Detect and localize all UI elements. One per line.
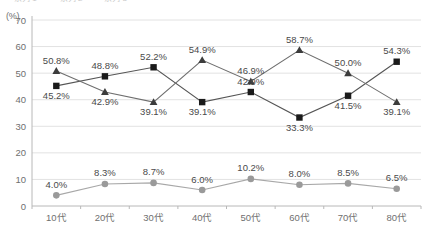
data-label: 42.9% [237, 76, 264, 87]
data-point-square [199, 99, 205, 105]
data-label: 46.9% [237, 65, 264, 76]
y-tick-label: 30 [15, 121, 26, 132]
data-label: 10.2% [237, 162, 264, 173]
data-label: 41.5% [335, 100, 362, 111]
data-label: 50.0% [335, 57, 362, 68]
data-label: 39.1% [140, 106, 167, 117]
data-label: 8.5% [337, 167, 359, 178]
x-tick-label: 60代 [289, 212, 310, 223]
data-point-triangle [101, 88, 109, 95]
data-label: 4.0% [45, 179, 67, 190]
y-tick-label: 70 [15, 15, 26, 26]
data-point-square [102, 73, 108, 79]
data-point-circle [393, 185, 400, 192]
data-point-triangle [296, 46, 304, 53]
data-label: 8.7% [143, 166, 165, 177]
x-tick-label: 20代 [95, 212, 116, 223]
x-tick-label: 80代 [386, 212, 407, 223]
y-tick-label: 40 [15, 94, 26, 105]
data-point-circle [53, 192, 60, 199]
data-point-circle [296, 181, 303, 188]
data-label: 33.3% [286, 122, 313, 133]
data-label: 58.7% [286, 34, 313, 45]
data-point-square [345, 93, 351, 99]
data-label: 8.3% [94, 167, 116, 178]
data-point-square [53, 83, 59, 89]
data-label: 54.3% [383, 45, 410, 56]
y-axis-tick-labels: 010203040506070 [15, 15, 26, 212]
data-point-triangle [52, 67, 60, 74]
data-label: 6.5% [386, 172, 408, 183]
axis-lines [32, 16, 421, 206]
data-point-triangle [198, 56, 206, 63]
chart-plot-area: 010203040506070 10代20代30代40代50代60代70代80代… [0, 0, 427, 242]
y-tick-label: 50 [15, 68, 26, 79]
data-label: 50.8% [43, 55, 70, 66]
data-labels-layer: 45.2%48.8%52.2%39.1%42.9%33.3%41.5%54.3%… [43, 34, 411, 190]
data-label: 6.0% [191, 174, 213, 185]
x-tick-label: 70代 [338, 212, 359, 223]
data-label: 39.1% [189, 106, 216, 117]
data-point-square [248, 89, 254, 95]
data-point-circle [150, 180, 157, 187]
x-tick-label: 10代 [46, 212, 67, 223]
data-point-square [150, 64, 156, 70]
x-tick-label: 30代 [143, 212, 164, 223]
y-tick-label: 10 [15, 174, 26, 185]
y-tick-label: 0 [21, 201, 26, 212]
y-tick-label: 20 [15, 147, 26, 158]
data-point-square [393, 59, 399, 65]
data-point-circle [199, 187, 206, 194]
data-label: 8.0% [289, 168, 311, 179]
y-tick-label: 60 [15, 41, 26, 52]
data-label: 48.8% [91, 60, 118, 71]
data-label: 54.9% [189, 44, 216, 55]
data-point-circle [248, 176, 255, 183]
data-label: 42.9% [91, 96, 118, 107]
gridlines [32, 20, 421, 179]
x-tick-label: 50代 [241, 212, 262, 223]
x-axis-tick-labels: 10代20代30代40代50代60代70代80代 [32, 206, 421, 223]
data-label: 52.2% [140, 51, 167, 62]
line-chart: 系列 1 系列 2 系列 3 (%) 010203040506070 10代20… [0, 0, 427, 242]
data-point-circle [345, 180, 352, 187]
x-tick-label: 40代 [192, 212, 213, 223]
data-label: 39.1% [383, 106, 410, 117]
data-point-circle [102, 181, 109, 188]
data-label: 45.2% [43, 90, 70, 101]
data-point-square [296, 114, 302, 120]
